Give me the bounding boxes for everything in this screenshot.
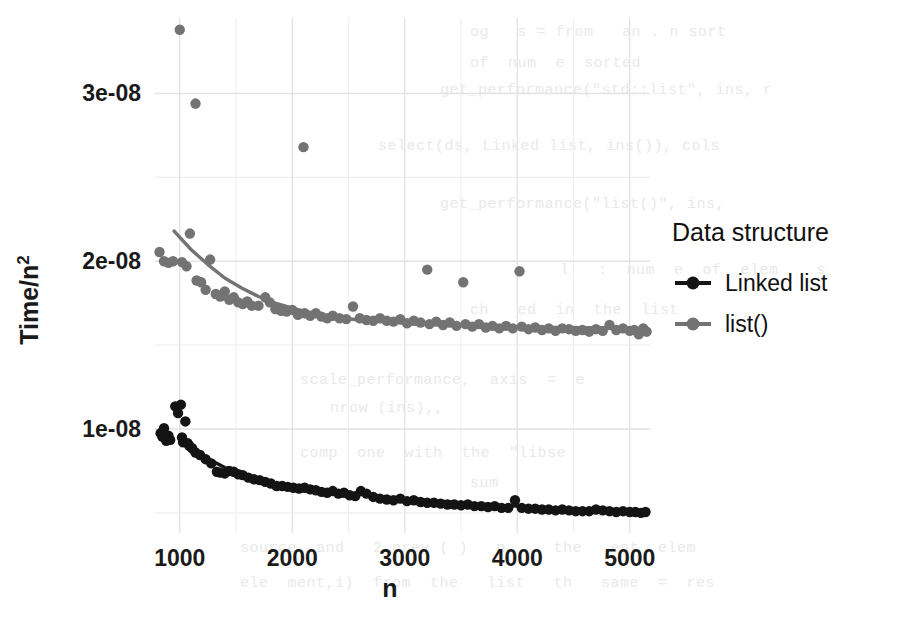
- y-tick-label: 1e-08: [82, 416, 141, 442]
- legend: Data structure Linked listlist(): [672, 218, 829, 337]
- legend-item-label: list(): [725, 311, 768, 337]
- data-point: [185, 228, 195, 238]
- data-point: [176, 399, 186, 409]
- data-point: [181, 261, 191, 271]
- legend-title: Data structure: [672, 218, 829, 246]
- grid-major-lines: [155, 18, 650, 533]
- chart-figure: og s = from an . n sortof num e sortedge…: [0, 0, 900, 625]
- x-tick-label: 1000: [154, 545, 205, 571]
- series-list-points: [154, 25, 652, 340]
- y-tick-label: 2e-08: [82, 248, 141, 274]
- y-axis-tick-labels: 1e-082e-083e-08: [82, 80, 141, 442]
- grid-minor-lines: [155, 18, 650, 533]
- data-point: [175, 25, 185, 35]
- data-point: [458, 277, 468, 287]
- y-axis-title: Time/n2: [14, 255, 43, 345]
- data-point: [422, 264, 432, 274]
- data-point: [253, 300, 263, 310]
- data-point: [348, 301, 358, 311]
- series-list-fit-line: [174, 231, 647, 329]
- data-point: [514, 266, 524, 276]
- x-tick-label: 3000: [379, 545, 430, 571]
- svg-text:Time/n2: Time/n2: [14, 255, 43, 345]
- data-point: [165, 435, 175, 445]
- legend-item-label: Linked list: [725, 270, 828, 296]
- data-point: [190, 98, 200, 108]
- legend-key-point: [687, 318, 700, 331]
- y-tick-label: 3e-08: [82, 80, 141, 106]
- x-tick-label: 2000: [267, 545, 318, 571]
- data-point: [180, 416, 190, 426]
- series-linked-list-points: [155, 399, 650, 518]
- scatter-plot-svg: 1e-082e-083e-08 10002000300040005000 n T…: [0, 0, 900, 625]
- data-point: [168, 256, 178, 266]
- x-axis-tick-labels: 10002000300040005000: [154, 545, 655, 571]
- data-point: [154, 247, 164, 257]
- data-point: [200, 285, 210, 295]
- x-tick-label: 5000: [604, 545, 655, 571]
- legend-item: list(): [675, 311, 768, 337]
- legend-item: Linked list: [675, 270, 828, 296]
- data-point: [298, 142, 308, 152]
- x-tick-label: 4000: [492, 545, 543, 571]
- x-axis-title: n: [382, 574, 397, 602]
- legend-key-point: [687, 277, 700, 290]
